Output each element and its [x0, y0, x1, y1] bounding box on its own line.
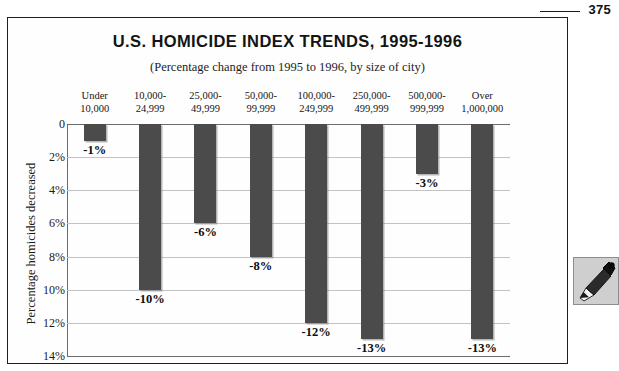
- chart-subtitle: (Percentage change from 1995 to 1996, by…: [8, 60, 567, 75]
- bar-value-label: -10%: [135, 292, 164, 307]
- category-label-line: Under: [80, 90, 109, 103]
- category-label-line: 100,000-: [297, 90, 335, 103]
- y-axis-tick-label: 6%: [25, 216, 65, 231]
- bar: [361, 124, 383, 339]
- category-label-line: 249,999: [297, 103, 335, 116]
- page-number: 375: [588, 2, 611, 17]
- y-axis-tick-label: 2%: [25, 150, 65, 165]
- category-label: 50,000-99,999: [245, 90, 277, 115]
- category-label-line: 50,000-: [245, 90, 277, 103]
- category-label: 100,000-249,999: [297, 90, 335, 115]
- bar: [84, 124, 106, 141]
- category-label-line: 250,000-: [353, 90, 391, 103]
- y-axis-tick-label: 10%: [25, 282, 65, 297]
- category-label: 500,000-999,999: [408, 90, 446, 115]
- gridline: [67, 223, 510, 224]
- y-axis-tick-labels: 02%4%6%8%10%12%14%: [21, 124, 65, 356]
- zero-baseline: [67, 124, 510, 125]
- bar-value-label: -6%: [194, 225, 217, 240]
- bar-value-label: -12%: [302, 325, 331, 340]
- chart-title: U.S. HOMICIDE INDEX TRENDS, 1995-1996: [8, 32, 567, 51]
- category-label: 10,000-24,999: [134, 90, 166, 115]
- category-label-line: 24,999: [134, 103, 166, 116]
- bar-value-label: -13%: [357, 341, 386, 356]
- gridline: [67, 157, 510, 158]
- page-header-rule: [540, 11, 580, 12]
- category-label-line: 10,000-: [134, 90, 166, 103]
- category-label-line: 49,999: [189, 103, 221, 116]
- plot-bottom-axis: [67, 356, 510, 357]
- gridline: [67, 190, 510, 191]
- category-label-line: Over: [461, 90, 503, 103]
- bar-value-label: -13%: [468, 341, 497, 356]
- figure-frame: U.S. HOMICIDE INDEX TRENDS, 1995-1996 (P…: [7, 17, 568, 364]
- category-label: 25,000-49,999: [189, 90, 221, 115]
- bar-value-label: -1%: [83, 143, 106, 158]
- bar: [471, 124, 493, 339]
- bar: [305, 124, 327, 323]
- category-label-line: 10,000: [80, 103, 109, 116]
- y-axis-tick-label: 8%: [25, 249, 65, 264]
- category-label-line: 25,000-: [189, 90, 221, 103]
- bar: [416, 124, 438, 174]
- y-axis-line: [67, 124, 68, 356]
- bar-value-label: -3%: [415, 176, 438, 191]
- gridline: [67, 257, 510, 258]
- y-axis-tick-label: 12%: [25, 315, 65, 330]
- gridline: [67, 290, 510, 291]
- bar: [139, 124, 161, 290]
- category-label: 250,000-499,999: [353, 90, 391, 115]
- category-label: Over1,000,000: [461, 90, 503, 115]
- category-labels: Under10,00010,000-24,99925,000-49,99950,…: [67, 90, 510, 122]
- plot-area: -1%-10%-6%-8%-12%-13%-3%-13%: [67, 124, 510, 356]
- category-label-line: 999,999: [408, 103, 446, 116]
- category-label: Under10,000: [80, 90, 109, 115]
- bar: [194, 124, 216, 223]
- pen-icon: [573, 257, 619, 305]
- bar: [250, 124, 272, 257]
- y-axis-tick-label: 4%: [25, 183, 65, 198]
- y-axis-tick-label: 0: [25, 117, 65, 132]
- category-label-line: 499,999: [353, 103, 391, 116]
- category-label-line: 500,000-: [408, 90, 446, 103]
- category-label-line: 1,000,000: [461, 103, 503, 116]
- bar-value-label: -8%: [249, 259, 272, 274]
- category-label-line: 99,999: [245, 103, 277, 116]
- gridline: [67, 323, 510, 324]
- y-axis-tick-label: 14%: [25, 349, 65, 364]
